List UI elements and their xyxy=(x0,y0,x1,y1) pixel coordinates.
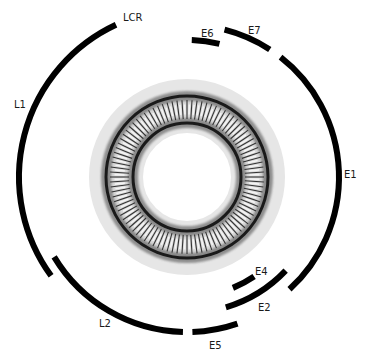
genome-diagram: L1LCRL2E5E2E4E1E7E6 xyxy=(0,0,367,359)
segment-label-l2: L2 xyxy=(99,318,111,329)
segment-label-e6: E6 xyxy=(201,28,214,39)
segment-arc-e5 xyxy=(192,324,237,332)
segment-label-e2: E2 xyxy=(258,302,271,313)
segment-label-e1: E1 xyxy=(344,169,357,180)
segment-arc-e6 xyxy=(192,40,220,44)
segment-arcs xyxy=(19,25,339,332)
segment-label-e7: E7 xyxy=(248,25,261,36)
segment-label-lcr: LCR xyxy=(123,12,143,23)
central-ring xyxy=(106,96,268,258)
segment-label-e5: E5 xyxy=(209,340,222,351)
segment-arc-e4 xyxy=(233,276,254,287)
segment-label-e4: E4 xyxy=(255,266,268,277)
segment-arc-e1 xyxy=(281,57,339,289)
inner-dark-ring xyxy=(133,123,241,231)
segment-label-l1: L1 xyxy=(14,99,26,110)
